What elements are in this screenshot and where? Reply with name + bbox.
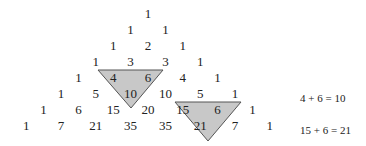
cell-r7-c3: 35 [124, 119, 137, 132]
cell-r7-c2: 21 [89, 119, 102, 132]
cell-r2-c2: 1 [180, 39, 187, 52]
cell-r3-c0: 1 [93, 55, 100, 68]
cell-r5-c1: 5 [93, 87, 100, 100]
cell-r4-c2: 6 [145, 71, 152, 84]
cell-r6-c2: 15 [107, 103, 120, 116]
cell-r3-c3: 1 [197, 55, 204, 68]
cell-r7-c4: 35 [159, 119, 172, 132]
cell-r4-c3: 4 [180, 71, 187, 84]
cell-r2-c1: 2 [145, 39, 152, 52]
cell-r6-c1: 6 [75, 103, 82, 116]
cell-r1-c0: 1 [127, 23, 134, 36]
cell-r6-c6: 1 [249, 103, 256, 116]
equation-1: 4 + 6 = 10 [300, 93, 345, 104]
cell-r0-c0: 1 [145, 7, 152, 20]
cell-r5-c2: 10 [124, 87, 137, 100]
cell-r5-c4: 5 [197, 87, 204, 100]
cell-r4-c0: 1 [75, 71, 82, 84]
cell-r3-c1: 3 [127, 55, 134, 68]
cell-r2-c0: 1 [110, 39, 117, 52]
cell-r3-c2: 3 [162, 55, 169, 68]
cell-r7-c0: 1 [23, 119, 30, 132]
cell-r7-c5: 21 [194, 119, 207, 132]
cell-r7-c6: 7 [232, 119, 239, 132]
cell-r6-c0: 1 [40, 103, 47, 116]
cell-r5-c0: 1 [58, 87, 65, 100]
cell-r7-c7: 1 [267, 119, 274, 132]
cell-r7-c1: 7 [58, 119, 65, 132]
cell-r6-c4: 15 [176, 103, 189, 116]
equation-2: 15 + 6 = 21 [300, 125, 351, 136]
cell-r6-c5: 6 [214, 103, 221, 116]
cell-r5-c5: 1 [232, 87, 239, 100]
cell-r5-c3: 10 [159, 87, 172, 100]
cell-r1-c1: 1 [162, 23, 169, 36]
cell-r4-c1: 4 [110, 71, 117, 84]
cell-r4-c4: 1 [214, 71, 221, 84]
cell-r6-c3: 20 [142, 103, 155, 116]
